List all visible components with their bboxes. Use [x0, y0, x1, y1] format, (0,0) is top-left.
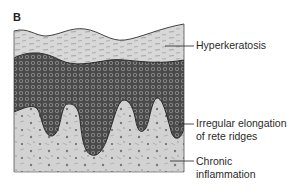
tissue-section-illustration: [0, 0, 304, 196]
histology-diagram: B Hyperkeratosis Irregular elongation of…: [0, 0, 304, 196]
label-chronic-inflammation: Chronic inflammation: [196, 155, 256, 180]
label-hyperkeratosis-text: Hyperkeratosis: [196, 39, 266, 51]
label-chronic-line1: Chronic: [196, 155, 256, 168]
label-rete-ridges: Irregular elongation of rete ridges: [196, 117, 286, 142]
label-rete-line1: Irregular elongation: [196, 117, 286, 130]
tissue-layers: [14, 20, 184, 172]
label-chronic-line2: inflammation: [196, 168, 256, 181]
label-hyperkeratosis: Hyperkeratosis: [196, 39, 266, 52]
panel-letter: B: [13, 11, 21, 23]
label-rete-line2: of rete ridges: [196, 130, 286, 143]
